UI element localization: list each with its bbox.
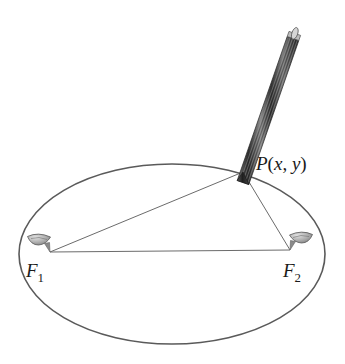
segment-f1-to-p	[50, 172, 243, 252]
string-segments	[50, 172, 290, 252]
ellipse-curve	[19, 164, 325, 344]
thumbtack-f1	[28, 234, 51, 252]
thumbtack-f2-shaft	[290, 241, 296, 251]
segment-f1-to-f2	[50, 250, 290, 252]
thumbtack-f1-shaft	[45, 243, 51, 253]
diagram-canvas: P(x, y) F1 F2	[0, 0, 345, 364]
thumbtack-f2	[290, 232, 313, 250]
label-point-p: P(x, y)	[255, 153, 307, 175]
label-focus-f2: F2	[282, 260, 301, 285]
label-focus-f1: F1	[25, 260, 44, 285]
ellipse-diagram: P(x, y) F1 F2	[0, 0, 345, 364]
